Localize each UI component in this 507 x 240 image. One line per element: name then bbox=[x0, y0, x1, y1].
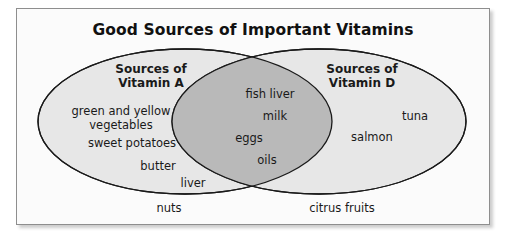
vitamin-a-item-sweet-potatoes: sweet potatoes bbox=[88, 137, 176, 150]
vitamin-a-item-green-yellow-line1: green and yellow bbox=[72, 104, 171, 118]
outside-item-citrus-fruits: citrus fruits bbox=[309, 202, 374, 215]
vitamin-d-item-salmon: salmon bbox=[351, 131, 393, 144]
vitamin-a-item-butter: butter bbox=[140, 160, 175, 173]
vitamin-d-item-tuna: tuna bbox=[402, 110, 428, 123]
intersection-item-milk: milk bbox=[263, 110, 287, 123]
vitamin-a-item-green-yellow-line2: vegetables bbox=[72, 118, 171, 132]
figure-frame: Good Sources of Important Vitamins Sourc… bbox=[16, 8, 490, 225]
vitamin-a-heading-line1: Sources of bbox=[115, 62, 186, 76]
vitamin-d-heading-line1: Sources of bbox=[326, 62, 397, 76]
venn-diagram-figure: Good Sources of Important Vitamins Sourc… bbox=[0, 0, 507, 240]
vitamin-a-heading: Sources of Vitamin A bbox=[115, 62, 186, 90]
intersection-item-oils: oils bbox=[257, 154, 276, 167]
vitamin-d-heading-line2: Vitamin D bbox=[326, 76, 397, 90]
intersection-item-fish-liver: fish liver bbox=[245, 88, 294, 101]
vitamin-a-item-green-yellow-vegetables: green and yellow vegetables bbox=[72, 104, 171, 132]
vitamin-d-heading: Sources of Vitamin D bbox=[326, 62, 397, 90]
intersection-item-eggs: eggs bbox=[235, 132, 263, 145]
outside-item-nuts: nuts bbox=[156, 202, 181, 215]
venn-area: Sources of Vitamin A green and yellow ve… bbox=[17, 9, 491, 226]
vitamin-a-item-liver: liver bbox=[181, 177, 206, 190]
vitamin-a-heading-line2: Vitamin A bbox=[115, 76, 186, 90]
